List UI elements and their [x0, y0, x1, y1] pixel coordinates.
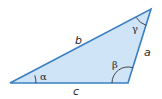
side-label-c: c [73, 85, 79, 98]
side-label-a: a [144, 46, 151, 59]
angle-label-beta: β [112, 59, 118, 70]
angle-label-alpha: α [40, 71, 47, 82]
angle-label-gamma: γ [132, 23, 138, 34]
triangle-diagram: b a c α β γ [0, 0, 162, 99]
side-label-b: b [75, 34, 82, 47]
